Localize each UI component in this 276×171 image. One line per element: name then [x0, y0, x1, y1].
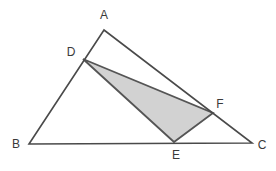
vertex-label-c: C: [258, 138, 267, 152]
geometry-canvas: A B C D E F: [0, 0, 276, 171]
vertex-label-d: D: [67, 45, 76, 59]
geometry-figure: A B C D E F: [0, 0, 276, 171]
vertex-label-a: A: [100, 8, 108, 22]
vertex-label-e: E: [172, 148, 180, 162]
shaded-triangle-def: [83, 59, 213, 142]
vertex-label-f: F: [216, 97, 223, 111]
vertex-label-b: B: [12, 137, 20, 151]
